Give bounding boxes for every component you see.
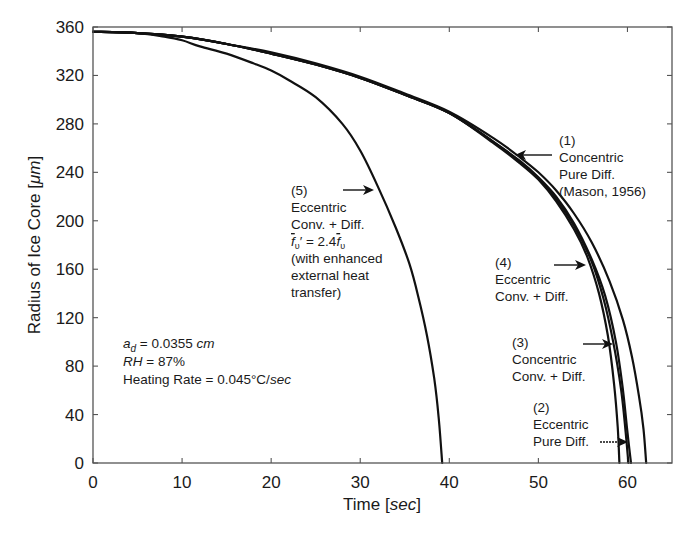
annotation-2-line: Pure Diff. bbox=[533, 434, 589, 449]
curve-1 bbox=[93, 32, 646, 463]
x-tick-label: 10 bbox=[173, 473, 192, 492]
annotation-5-formula: fυ′ = 2.4fυ bbox=[291, 234, 345, 251]
y-tick-label: 320 bbox=[56, 66, 84, 85]
annotation-5-line: (with enhanced bbox=[291, 251, 383, 266]
curve-3 bbox=[93, 32, 628, 463]
annotation-1-line: (1) bbox=[559, 133, 576, 148]
x-tick-label: 50 bbox=[529, 473, 548, 492]
y-tick-label: 0 bbox=[75, 454, 84, 473]
relative-humidity-param: RH = 87% bbox=[123, 354, 185, 369]
droplet-radius-param: ad = 0.0355 cm bbox=[123, 336, 215, 354]
x-tick-label: 0 bbox=[88, 473, 97, 492]
annotation-1-line: Concentric bbox=[559, 150, 624, 165]
x-tick-label: 60 bbox=[618, 473, 637, 492]
annotation-5-line: Eccentric bbox=[291, 200, 347, 215]
annotation-curve-4: (4) Eccentric Conv. + Diff. bbox=[495, 255, 586, 304]
annotation-2-line: (2) bbox=[533, 400, 550, 415]
annotation-3-line: Concentric bbox=[512, 352, 577, 367]
annotation-curve-1: (1) Concentric Pure Diff. (Mason, 1956) bbox=[515, 133, 646, 199]
parameters-annotation: ad = 0.0355 cm RH = 87% Heating Rate = 0… bbox=[123, 336, 291, 387]
annotation-4-line: Eccentric bbox=[495, 272, 551, 287]
y-tick-label: 240 bbox=[56, 163, 84, 182]
x-tick-label: 30 bbox=[351, 473, 370, 492]
heating-rate-param: Heating Rate = 0.045°C/sec bbox=[123, 372, 291, 387]
annotation-2-line: Eccentric bbox=[533, 417, 589, 432]
annotation-5-line: (5) bbox=[291, 183, 308, 198]
annotation-3-line: (3) bbox=[512, 335, 529, 350]
annotation-5-line: transfer) bbox=[291, 285, 341, 300]
annotation-4-line: Conv. + Diff. bbox=[495, 289, 568, 304]
annotation-4-line: (4) bbox=[495, 255, 512, 270]
annotation-1-line: Pure Diff. bbox=[559, 167, 615, 182]
ice-core-radius-chart: 010203040506004080120160200240280320360 … bbox=[0, 0, 690, 535]
annotation-5-line: Conv. + Diff. bbox=[291, 217, 364, 232]
data-curves bbox=[93, 32, 646, 463]
y-tick-label: 160 bbox=[56, 260, 84, 279]
x-axis-title: Time [sec] bbox=[343, 495, 421, 514]
annotation-curve-5: (5) Eccentric Conv. + Diff. fυ′ = 2.4fυ … bbox=[291, 183, 383, 300]
y-axis-title: Radius of Ice Core [μm] bbox=[25, 156, 44, 334]
curve-2 bbox=[93, 32, 631, 463]
y-tick-label: 280 bbox=[56, 115, 84, 134]
curve-4 bbox=[93, 32, 619, 463]
annotation-curve-3: (3) Concentric Conv. + Diff. bbox=[512, 335, 613, 384]
x-tick-label: 40 bbox=[440, 473, 459, 492]
y-tick-label: 40 bbox=[65, 406, 84, 425]
annotation-curve-2: (2) Eccentric Pure Diff. bbox=[533, 400, 628, 449]
annotation-3-line: Conv. + Diff. bbox=[512, 369, 585, 384]
x-tick-label: 20 bbox=[262, 473, 281, 492]
y-tick-label: 120 bbox=[56, 309, 84, 328]
y-tick-label: 80 bbox=[65, 357, 84, 376]
y-tick-label: 360 bbox=[56, 18, 84, 37]
curve-5 bbox=[93, 32, 442, 463]
y-tick-label: 200 bbox=[56, 212, 84, 231]
annotation-1-line: (Mason, 1956) bbox=[559, 184, 646, 199]
annotation-5-line: external heat bbox=[291, 268, 369, 283]
